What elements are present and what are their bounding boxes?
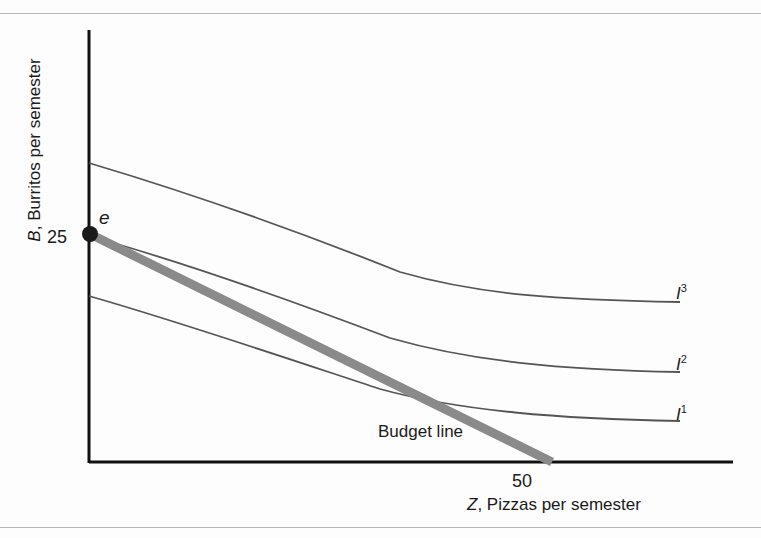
curve-label-i3-superscript: 3: [681, 282, 687, 294]
curve-label-i1-superscript: 1: [681, 403, 687, 415]
budget-line: [92, 235, 552, 462]
x-axis-label: Z, Pizzas per semester: [467, 495, 641, 515]
y-axis-tick-label-25: 25: [47, 227, 67, 248]
x-axis-label-text: , Pizzas per semester: [477, 495, 640, 514]
y-axis-label-text: , Burritos per semester: [25, 58, 44, 230]
curve-label-i2-superscript: 2: [681, 353, 687, 365]
y-axis-label-variable: B: [25, 230, 44, 241]
curve-label-i1: I1: [676, 403, 687, 425]
y-axis-label: B, Burritos per semester: [25, 35, 45, 265]
optimum-point-label-e: e: [99, 207, 110, 229]
x-axis-tick-label-50: 50: [512, 471, 532, 492]
indifference-curve-i1: [89, 296, 680, 421]
optimum-point-e: [82, 226, 98, 242]
figure-canvas: B, Burritos per semester Z, Pizzas per s…: [0, 0, 761, 538]
budget-line-label: Budget line: [378, 422, 463, 442]
x-axis-label-variable: Z: [467, 495, 477, 514]
chart-plot-area: [0, 0, 761, 538]
curve-label-i3: I3: [676, 282, 687, 304]
indifference-curve-i2: [89, 236, 680, 372]
curve-label-i2: I2: [676, 353, 687, 375]
